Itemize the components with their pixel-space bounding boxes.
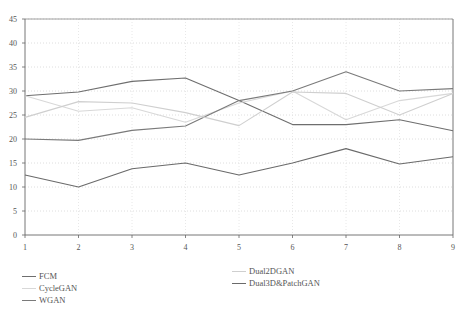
- legend-left: FCM CycleGAN WGAN: [22, 270, 77, 306]
- legend-item-wgan: WGAN: [22, 294, 77, 306]
- svg-text:25: 25: [9, 111, 17, 120]
- legend-item-dual3dpatchgan: Dual3D&PatchGAN: [232, 277, 320, 289]
- svg-text:35: 35: [9, 63, 17, 72]
- svg-text:10: 10: [9, 183, 17, 192]
- legend-swatch: [232, 283, 246, 284]
- svg-text:4: 4: [184, 243, 188, 250]
- legend-swatch: [22, 300, 36, 301]
- svg-text:3: 3: [130, 243, 134, 250]
- svg-text:5: 5: [13, 207, 17, 216]
- legend-item-cyclegan: CycleGAN: [22, 282, 77, 294]
- svg-text:7: 7: [344, 243, 348, 250]
- svg-text:6: 6: [291, 243, 295, 250]
- svg-text:9: 9: [451, 243, 455, 250]
- svg-text:15: 15: [9, 159, 17, 168]
- legend-swatch: [22, 288, 36, 289]
- svg-text:40: 40: [9, 39, 17, 48]
- legend-swatch: [232, 271, 246, 272]
- svg-text:5: 5: [237, 243, 241, 250]
- svg-text:1: 1: [23, 243, 27, 250]
- legend-swatch: [22, 276, 36, 277]
- axes: [22, 19, 453, 238]
- legend-right: Dual2DGAN Dual3D&PatchGAN: [232, 265, 320, 289]
- legend-item-dual2dgan: Dual2DGAN: [232, 265, 320, 277]
- line-chart: 051015202530354045123456789: [0, 0, 461, 250]
- svg-text:8: 8: [398, 243, 402, 250]
- svg-text:30: 30: [9, 87, 17, 96]
- svg-text:2: 2: [77, 243, 81, 250]
- grid: [25, 19, 453, 235]
- svg-text:45: 45: [9, 15, 17, 24]
- svg-text:20: 20: [9, 135, 17, 144]
- legend-item-fcm: FCM: [22, 270, 77, 282]
- tick-labels: 051015202530354045123456789: [9, 15, 455, 250]
- svg-text:0: 0: [13, 231, 17, 240]
